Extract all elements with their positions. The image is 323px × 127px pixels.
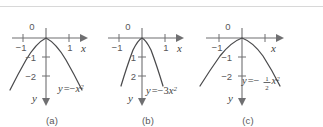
y-axis-arrowhead-c [238,98,246,106]
y-tick-label-neg2-a: −2 [25,71,36,82]
equation-c-fraction-denominator: 2 [265,84,269,91]
panel-caption-a: (a) [2,115,102,126]
graph-panel-b: 0 −1 1 1 2 x y y=−3x2 (b) [98,12,198,127]
x-tick-label-neg1-b: −1 [112,42,123,53]
panel-caption-c: (c) [198,115,298,126]
equation-c-minus: − [254,75,260,86]
x-axis-label-b: x [176,42,182,54]
graph-svg-c: 0 −1 −1 −2 x y y=− 1 2 x2 [198,12,308,116]
y-tick-label-neg1-c: −1 [221,52,232,63]
origin-label-c: 0 [225,21,230,32]
top-divider-rule [0,6,323,7]
graph-svg-a: 0 −1 1 −1 −2 x y y=−x2 [2,12,102,116]
x-axis-label-c: x [270,42,276,54]
x-tick-label-pos1-b: 1 [163,42,168,53]
y-axis-label-a: y [31,92,37,104]
y-tick-label-neg1-a: −1 [25,52,36,63]
equation-a-exponent: 2 [80,83,84,91]
equation-b-exponent: 2 [173,85,177,93]
svg-text:y=−: y=− [241,75,260,86]
graph-svg-b: 0 −1 1 1 2 x y y=−3x2 [98,12,198,116]
x-axis-arrowhead-c [276,34,284,42]
y-tick-label-2-b: 2 [131,71,136,82]
x-axis-label-a: x [80,42,86,54]
panel-caption-b: (b) [98,115,198,126]
equation-label-a: y=−x2 [57,83,84,95]
origin-label-b: 0 [125,21,130,32]
equation-a-y: y [57,83,63,94]
equation-c-exponent: 2 [276,75,280,83]
graph-panel-a: 0 −1 1 −1 −2 x y y=−x2 (a) [2,12,102,127]
svg-text:y=−x2: y=−x2 [57,83,84,95]
figure-container: 0 −1 1 −1 −2 x y y=−x2 (a) [0,0,323,127]
x-axis-arrowhead-a [80,34,88,42]
equation-c-fraction-numerator: 1 [265,75,268,82]
y-axis-arrowhead-b [138,98,146,106]
y-axis-arrowhead-a [42,98,50,106]
svg-text:y=−3x2: y=−3x2 [145,85,177,97]
origin-label-a: 0 [29,21,34,32]
y-tick-label-neg2-c: −2 [221,71,232,82]
equation-c-y: y [241,75,247,86]
y-tick-label-1-b: 1 [131,52,136,63]
equation-b-y: y [145,85,151,96]
y-axis-label-b: y [127,92,133,104]
x-axis-arrowhead-b [176,34,184,42]
x-tick-label-pos1-a: 1 [67,42,72,53]
equation-label-b: y=−3x2 [145,85,177,97]
equation-label-c: y=− 1 2 x2 [241,75,280,91]
y-axis-label-c: y [227,92,233,104]
graph-panel-c: 0 −1 −1 −2 x y y=− 1 2 x2 (c) [198,12,298,127]
